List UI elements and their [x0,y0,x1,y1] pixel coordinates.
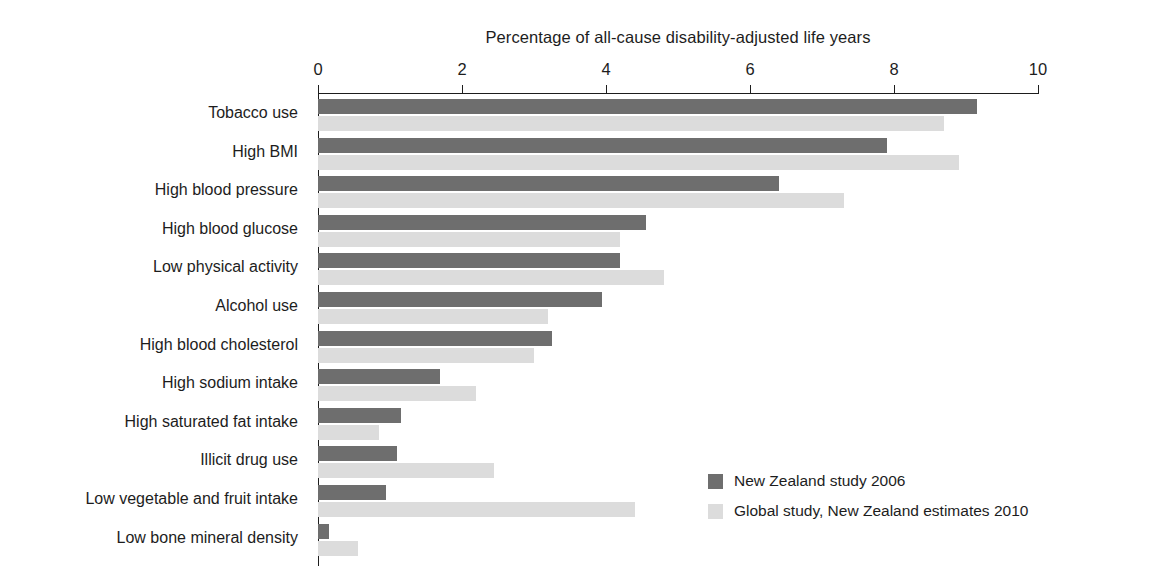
category-label: High saturated fat intake [0,413,310,431]
x-tick-mark [318,85,319,94]
x-axis-tick-labels: 0246810 [318,60,1038,96]
chart-title: Percentage of all-cause disability-adjus… [318,28,1038,47]
bar-series1 [318,331,552,346]
bar-series1 [318,446,397,461]
category-label: High BMI [0,143,310,161]
legend-swatch-icon [708,474,723,489]
category-label: Low bone mineral density [0,529,310,547]
bar-series1 [318,408,401,423]
bar-series2 [318,270,664,285]
bar-series1 [318,99,977,114]
legend-swatch-icon [708,504,723,519]
x-tick-label: 10 [1029,60,1047,79]
x-tick-label: 6 [745,60,754,79]
category-label: Low vegetable and fruit intake [0,490,310,508]
bar-series1 [318,485,386,500]
bar-series2 [318,425,379,440]
x-tick-label: 0 [313,60,322,79]
bar-series2 [318,463,494,478]
category-label: Illicit drug use [0,451,310,469]
legend-item: Global study, New Zealand estimates 2010 [708,496,1028,526]
x-tick-label: 4 [601,60,610,79]
bar-series2 [318,116,944,131]
bar-series1 [318,524,329,539]
x-tick-mark [1038,85,1039,94]
category-label: Alcohol use [0,297,310,315]
legend-label: Global study, New Zealand estimates 2010 [734,502,1028,520]
x-tick-label: 2 [457,60,466,79]
bar-series2 [318,386,476,401]
x-tick-mark [606,85,607,94]
category-label: Low physical activity [0,258,310,276]
bar-series2 [318,502,635,517]
bar-series1 [318,369,440,384]
bar-series1 [318,253,620,268]
category-label: Tobacco use [0,104,310,122]
x-axis-line [318,93,1039,94]
category-label: High sodium intake [0,374,310,392]
bar-series2 [318,309,548,324]
bar-series1 [318,138,887,153]
x-tick-mark [750,85,751,94]
category-label: High blood glucose [0,220,310,238]
category-label: High blood pressure [0,181,310,199]
legend-label: New Zealand study 2006 [734,472,905,490]
chart-figure: Percentage of all-cause disability-adjus… [0,0,1152,588]
x-tick-mark [894,85,895,94]
bar-series1 [318,292,602,307]
bar-series2 [318,193,844,208]
bar-series1 [318,176,779,191]
bar-series2 [318,232,620,247]
legend-item: New Zealand study 2006 [708,466,1028,496]
bar-series1 [318,215,646,230]
category-label: High blood cholesterol [0,336,310,354]
x-tick-label: 8 [889,60,898,79]
bar-series2 [318,155,959,170]
chart-legend: New Zealand study 2006Global study, New … [708,466,1028,526]
x-tick-mark [462,85,463,94]
bar-series2 [318,541,358,556]
bar-series2 [318,348,534,363]
